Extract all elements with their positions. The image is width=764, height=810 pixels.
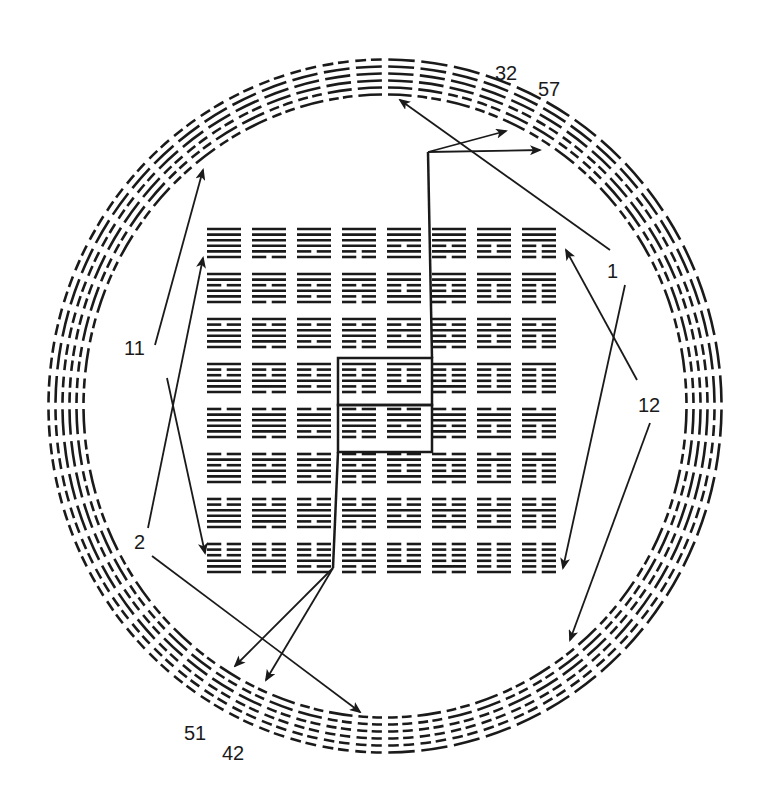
- label-12: 12: [638, 394, 660, 416]
- yin-line: [592, 654, 600, 661]
- yin-line: [102, 237, 107, 246]
- yin-line: [229, 713, 239, 718]
- yang-line: [388, 60, 414, 61]
- yin-line: [655, 224, 661, 233]
- yang-line: [388, 67, 414, 68]
- yin-line: [645, 210, 651, 219]
- yin-line: [195, 675, 204, 681]
- yang-line: [388, 751, 414, 752]
- yin-line: [95, 515, 99, 525]
- ring-hexagram: [64, 499, 105, 535]
- yin-line: [491, 107, 500, 111]
- yin-line: [83, 471, 85, 481]
- yang-line: [674, 470, 680, 494]
- yin-line: [692, 378, 693, 388]
- yin-line: [341, 728, 351, 729]
- yin-line: [214, 705, 224, 711]
- square-hexagram: [387, 409, 421, 437]
- yang-line: [324, 69, 350, 73]
- square-hexagram: [387, 499, 421, 527]
- yin-line: [475, 109, 484, 112]
- ring-hexagram: [665, 277, 706, 313]
- yin-line: [132, 624, 139, 632]
- square-hexagram: [207, 274, 241, 302]
- yang-line: [70, 409, 71, 435]
- yin-line: [683, 299, 686, 309]
- square-hexagram: [342, 409, 376, 437]
- yin-line: [91, 501, 94, 511]
- yin-line: [108, 562, 113, 571]
- yin-line: [338, 62, 349, 63]
- yang-line: [388, 88, 412, 89]
- yin-line: [651, 244, 656, 253]
- yin-line: [56, 477, 58, 488]
- square-hexagram: [252, 364, 286, 392]
- yin-line: [174, 676, 183, 683]
- yin-line: [357, 737, 367, 738]
- yin-line: [676, 501, 679, 511]
- yang-line: [713, 376, 714, 403]
- yin-line: [192, 152, 200, 158]
- yin-line: [620, 636, 627, 644]
- yin-line: [709, 458, 711, 469]
- yin-line: [124, 590, 130, 599]
- ring-hexagram: [652, 528, 694, 566]
- yang-line: [183, 131, 203, 147]
- yang-line: [695, 474, 701, 499]
- yang-line: [454, 67, 480, 74]
- yin-line: [669, 569, 674, 579]
- yin-line: [137, 641, 144, 649]
- yin-line: [637, 568, 642, 577]
- yang-line: [388, 74, 413, 75]
- yin-line: [73, 313, 76, 323]
- yin-line: [451, 729, 461, 731]
- yin-line: [579, 167, 586, 174]
- yang-line: [667, 572, 681, 595]
- yin-line: [59, 458, 61, 469]
- yin-line: [543, 698, 552, 703]
- yin-line: [183, 665, 191, 672]
- yin-line: [503, 689, 512, 693]
- yang-line: [681, 317, 687, 341]
- yang-line: [709, 343, 713, 369]
- yin-line: [699, 377, 700, 387]
- arrow-2-to-ring-bottom: [152, 556, 360, 712]
- yin-line: [628, 222, 634, 230]
- yang-line: [57, 343, 61, 369]
- yin-line: [689, 296, 692, 306]
- yang-line: [625, 163, 643, 183]
- yin-line: [159, 643, 167, 650]
- yin-line: [511, 708, 521, 712]
- yin-line: [698, 328, 700, 338]
- yin-line: [462, 98, 472, 101]
- ring-hexagram: [681, 440, 719, 471]
- yin-line: [652, 262, 656, 271]
- yin-line: [697, 361, 698, 371]
- yin-line: [496, 714, 506, 718]
- yin-line: [291, 71, 301, 74]
- yang-line: [97, 290, 105, 313]
- yin-line: [420, 735, 430, 736]
- yin-line: [77, 378, 78, 388]
- yin-line: [82, 539, 86, 549]
- yin-line: [281, 713, 291, 716]
- square-hexagram: [297, 409, 331, 437]
- yin-line: [174, 129, 183, 136]
- yin-line: [225, 121, 234, 126]
- yin-line: [419, 728, 429, 729]
- yin-line: [110, 224, 116, 233]
- yin-line: [571, 680, 580, 686]
- yang-line: [671, 287, 679, 311]
- yin-line: [201, 110, 210, 116]
- yin-line: [588, 156, 596, 163]
- yang-line: [69, 474, 75, 499]
- yin-line: [489, 114, 498, 118]
- yin-line: [659, 275, 663, 284]
- yang-line: [588, 638, 606, 655]
- yin-line: [161, 664, 169, 671]
- yin-line: [102, 513, 106, 522]
- square-hexagram: [432, 274, 466, 302]
- yang-line: [448, 712, 472, 718]
- yang-line: [699, 409, 700, 435]
- yin-line: [589, 177, 596, 184]
